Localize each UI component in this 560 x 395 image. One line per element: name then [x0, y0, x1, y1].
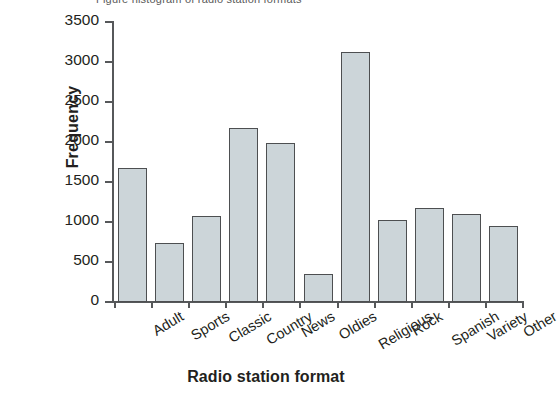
y-axis-tick-mark [105, 141, 113, 143]
x-axis-tick-mark [188, 303, 190, 308]
y-axis-tick-mark [105, 21, 113, 23]
bar [155, 243, 184, 302]
x-axis-title: Radio station format [0, 368, 532, 386]
x-axis-tick-mark [299, 303, 301, 308]
y-axis-tick: 2000 [105, 141, 113, 143]
x-axis-tick-label: Sports [188, 308, 232, 343]
bar [378, 220, 407, 302]
y-axis-tick-mark [105, 61, 113, 63]
x-axis-tick-mark [411, 303, 413, 308]
y-axis-tick-mark [105, 181, 113, 183]
x-axis-tick-mark [225, 303, 227, 308]
bar [415, 208, 444, 302]
y-axis-tick-label: 1000 [65, 211, 99, 229]
x-axis-tick-mark [374, 303, 376, 308]
cropped-caption-text: Figure histogram of radio station format… [96, 0, 302, 5]
bar [118, 168, 147, 302]
bar [489, 226, 518, 302]
y-axis-tick-label: 500 [73, 251, 99, 269]
y-axis-tick-mark [105, 101, 113, 103]
y-axis-tick-mark [105, 301, 113, 303]
y-axis-title: Frequency [64, 86, 82, 169]
bar [192, 216, 221, 302]
x-axis-tick-label-text: Adult [149, 308, 186, 339]
x-axis-tick-label: Other [521, 308, 560, 340]
y-axis-tick-label: 3000 [65, 51, 99, 69]
y-axis-tick: 2500 [105, 101, 113, 103]
x-axis-tick-label-text: Sports [188, 308, 232, 343]
x-axis-tick-mark [114, 303, 116, 308]
x-axis-tick-mark [448, 303, 450, 308]
y-axis-tick-label: 1500 [65, 171, 99, 189]
plot-area [114, 22, 522, 302]
y-axis-tick: 500 [105, 261, 113, 263]
cropped-caption-remnant: Figure histogram of radio station format… [0, 0, 532, 6]
bar [304, 274, 333, 302]
y-axis-tick: 1500 [105, 181, 113, 183]
x-axis-tick-mark [522, 303, 524, 308]
y-axis-tick-label: 0 [90, 291, 99, 309]
y-axis-tick: 1000 [105, 221, 113, 223]
bar [452, 214, 481, 302]
y-axis-tick: 3500 [105, 21, 113, 23]
x-axis-tick-label: Oldies [336, 308, 379, 343]
bar [229, 128, 258, 302]
x-axis-tick-mark [337, 303, 339, 308]
y-axis-tick-mark [105, 261, 113, 263]
x-axis-tick-label-text: Rock [409, 308, 446, 339]
x-axis-tick-mark [485, 303, 487, 308]
bar [341, 52, 370, 302]
y-axis-tick-mark [105, 221, 113, 223]
y-axis-tick-label: 3500 [65, 11, 99, 29]
x-axis-tick-label: Rock [409, 308, 446, 339]
x-axis-tick-mark [262, 303, 264, 308]
x-axis-tick-label: Adult [149, 308, 186, 339]
x-axis-tick-label-text: Other [521, 308, 560, 340]
y-axis-tick: 0 [105, 301, 113, 303]
x-axis-tick-label-text: Oldies [336, 308, 379, 343]
x-axis-tick-mark [151, 303, 153, 308]
bar [266, 143, 295, 302]
y-axis-tick: 3000 [105, 61, 113, 63]
